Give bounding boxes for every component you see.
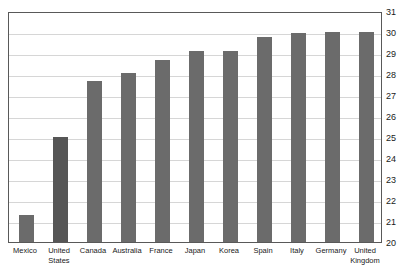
x-axis-tick-label-line: Japan	[178, 246, 212, 256]
y-axis-tick-label: 22	[386, 197, 408, 206]
x-axis-tick-label-line: Spain	[246, 246, 280, 256]
bar[interactable]	[53, 137, 68, 242]
x-axis-tick-label: Canada	[76, 246, 110, 256]
x-axis-tick-label: Germany	[314, 246, 348, 256]
x-axis-tick-label-line: United	[42, 246, 76, 256]
y-axis-tick-label: 23	[386, 176, 408, 185]
y-axis-tick-label: 20	[386, 239, 408, 248]
x-axis-tick-label-line: United	[348, 246, 382, 256]
bar[interactable]	[155, 60, 170, 242]
y-axis-tick-label: 24	[386, 155, 408, 164]
plot-area	[8, 12, 382, 243]
y-axis: 313029282726252423222120	[386, 12, 411, 243]
x-axis: MexicoUnitedStatesCanadaAustraliaFranceJ…	[8, 246, 382, 276]
x-axis-tick-label-line: Germany	[314, 246, 348, 256]
x-axis-tick-label-line: Korea	[212, 246, 246, 256]
y-axis-tick-label: 31	[386, 8, 408, 17]
y-axis-tick-label: 30	[386, 29, 408, 38]
x-axis-tick-label: Australia	[110, 246, 144, 256]
bar[interactable]	[291, 33, 306, 242]
x-axis-tick-label: UnitedKingdom	[348, 246, 382, 265]
bar-chart: 313029282726252423222120 MexicoUnitedSta…	[0, 0, 411, 279]
bar[interactable]	[359, 32, 374, 242]
bar[interactable]	[121, 73, 136, 242]
y-axis-tick-label: 28	[386, 71, 408, 80]
y-axis-tick-label: 27	[386, 92, 408, 101]
x-axis-tick-label: Spain	[246, 246, 280, 256]
x-axis-tick-label-line: Italy	[280, 246, 314, 256]
x-axis-tick-label-line: Canada	[76, 246, 110, 256]
x-axis-tick-label: Korea	[212, 246, 246, 256]
x-axis-tick-label: Japan	[178, 246, 212, 256]
y-axis-tick-label: 21	[386, 218, 408, 227]
y-axis-tick-label: 29	[386, 50, 408, 59]
bar[interactable]	[87, 81, 102, 242]
x-axis-tick-label-line: Kingdom	[348, 256, 382, 266]
y-axis-tick-label: 26	[386, 113, 408, 122]
bar[interactable]	[189, 51, 204, 242]
x-axis-tick-label: Mexico	[8, 246, 42, 256]
y-axis-tick-label: 25	[386, 134, 408, 143]
x-axis-tick-label-line: Mexico	[8, 246, 42, 256]
x-axis-tick-label: Italy	[280, 246, 314, 256]
x-axis-tick-label: France	[144, 246, 178, 256]
x-axis-tick-label: UnitedStates	[42, 246, 76, 265]
bar[interactable]	[325, 32, 340, 242]
x-axis-tick-label-line: France	[144, 246, 178, 256]
bar[interactable]	[223, 51, 238, 242]
x-axis-tick-label-line: Australia	[110, 246, 144, 256]
bar[interactable]	[257, 37, 272, 242]
x-axis-tick-label-line: States	[42, 256, 76, 266]
bars-group	[9, 13, 381, 242]
bar[interactable]	[19, 215, 34, 242]
